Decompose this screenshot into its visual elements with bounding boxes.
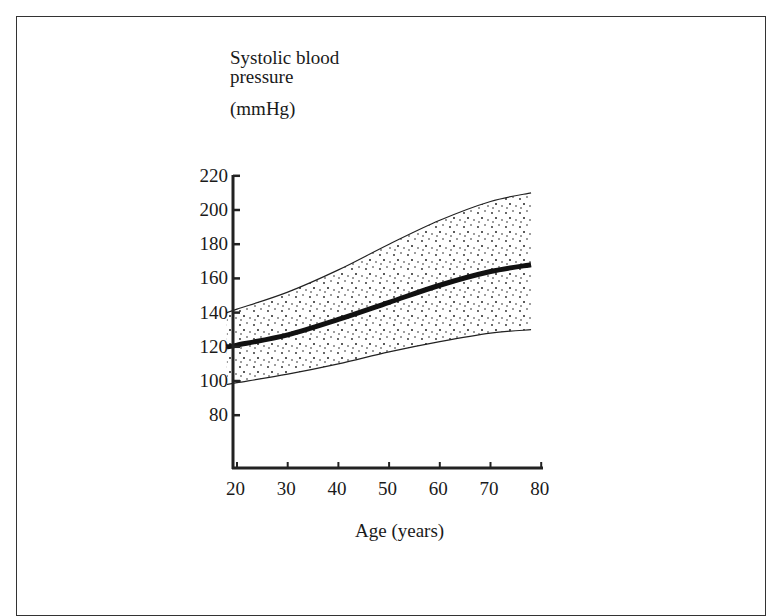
range-band <box>227 193 531 385</box>
